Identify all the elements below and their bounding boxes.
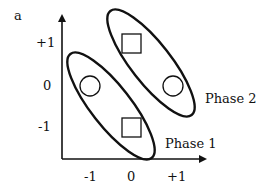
phase-2-ellipse — [95, 0, 208, 127]
y-tick-minus1: -1 — [38, 119, 51, 134]
panel-label: a — [14, 8, 22, 23]
x-tick-0: 0 — [127, 169, 135, 184]
phase-2-label: Phase 2 — [205, 91, 257, 106]
phase-1-ellipse — [55, 42, 168, 171]
square-marker-top — [122, 34, 141, 53]
phase-1-label: Phase 1 — [165, 136, 217, 151]
y-tick-0: 0 — [43, 78, 51, 93]
y-tick-plus1: +1 — [36, 35, 55, 50]
circle-marker-right — [163, 76, 183, 96]
x-tick-minus1: -1 — [84, 169, 97, 184]
phase-diagram: a +1 0 -1 -1 0 +1 Phase 2 Phase 1 — [0, 0, 264, 191]
square-marker-bottom — [122, 118, 141, 137]
x-tick-plus1: +1 — [167, 169, 186, 184]
circle-marker-left — [80, 76, 100, 96]
